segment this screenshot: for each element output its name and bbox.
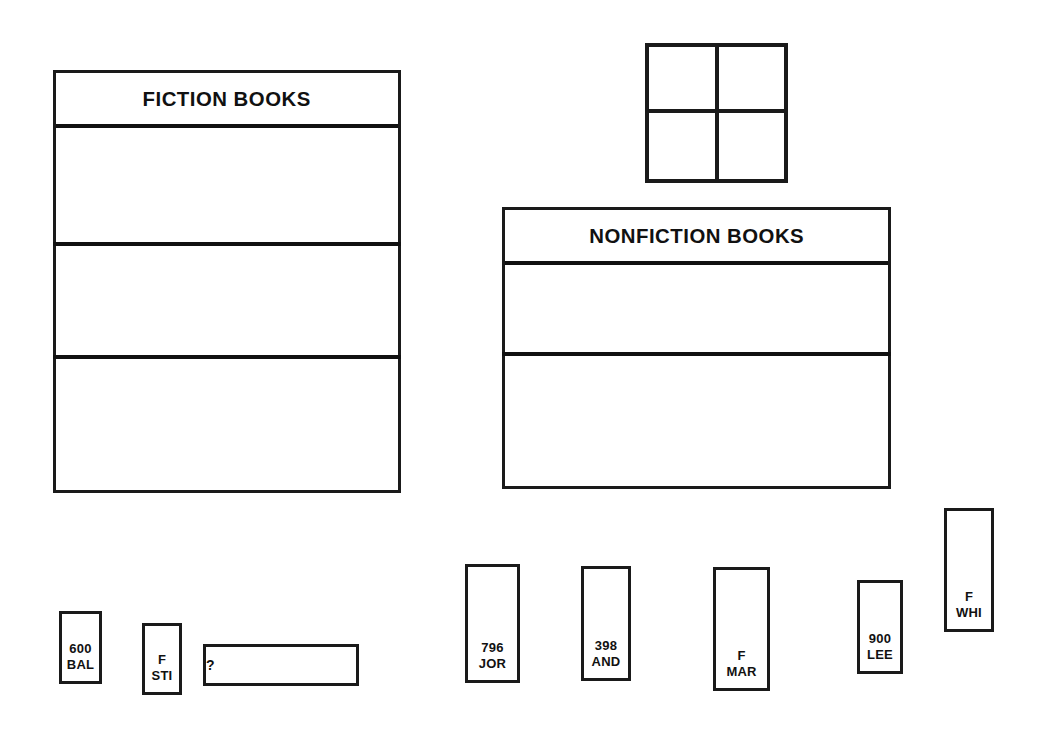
book-900-lee[interactable]: 900 LEE xyxy=(857,580,903,674)
book-f-sti-label: F STI xyxy=(145,652,179,683)
nonfiction-shelf-2[interactable] xyxy=(505,356,888,486)
book-f-whi[interactable]: F WHI xyxy=(944,508,994,632)
worksheet-canvas: FICTION BOOKS NONFICTION BOOKS 600 BAL F… xyxy=(0,0,1055,735)
book-f-mar[interactable]: F MAR xyxy=(713,567,770,691)
fiction-shelf-3[interactable] xyxy=(56,359,398,490)
nonfiction-shelf-1[interactable] xyxy=(505,265,888,352)
book-600-bal[interactable]: 600 BAL xyxy=(59,611,102,684)
fiction-title: FICTION BOOKS xyxy=(143,87,311,111)
book-398-and-label: 398 AND xyxy=(584,638,628,669)
book-900-lee-label: 900 LEE xyxy=(860,631,900,662)
book-600-bal-label: 600 BAL xyxy=(62,641,99,672)
window-mullion-horizontal xyxy=(648,109,785,113)
window xyxy=(645,43,788,183)
fiction-header-band: FICTION BOOKS xyxy=(56,73,398,128)
fiction-shelf-1[interactable] xyxy=(56,128,398,245)
book-f-whi-label: F WHI xyxy=(947,589,991,620)
book-unknown[interactable]: ? xyxy=(203,644,359,686)
bookcase-fiction[interactable]: FICTION BOOKS xyxy=(53,70,401,493)
book-398-and[interactable]: 398 AND xyxy=(581,566,631,681)
nonfiction-title: NONFICTION BOOKS xyxy=(589,224,804,248)
window-mullion-vertical xyxy=(715,46,719,180)
bookcase-nonfiction[interactable]: NONFICTION BOOKS xyxy=(502,207,891,489)
book-796-jor-label: 796 JOR xyxy=(468,640,517,671)
fiction-shelf-2[interactable] xyxy=(56,246,398,355)
book-796-jor[interactable]: 796 JOR xyxy=(465,564,520,683)
book-unknown-label: ? xyxy=(206,657,239,674)
book-f-sti[interactable]: F STI xyxy=(142,623,182,695)
nonfiction-header-band: NONFICTION BOOKS xyxy=(505,210,888,265)
book-f-mar-label: F MAR xyxy=(716,648,767,679)
